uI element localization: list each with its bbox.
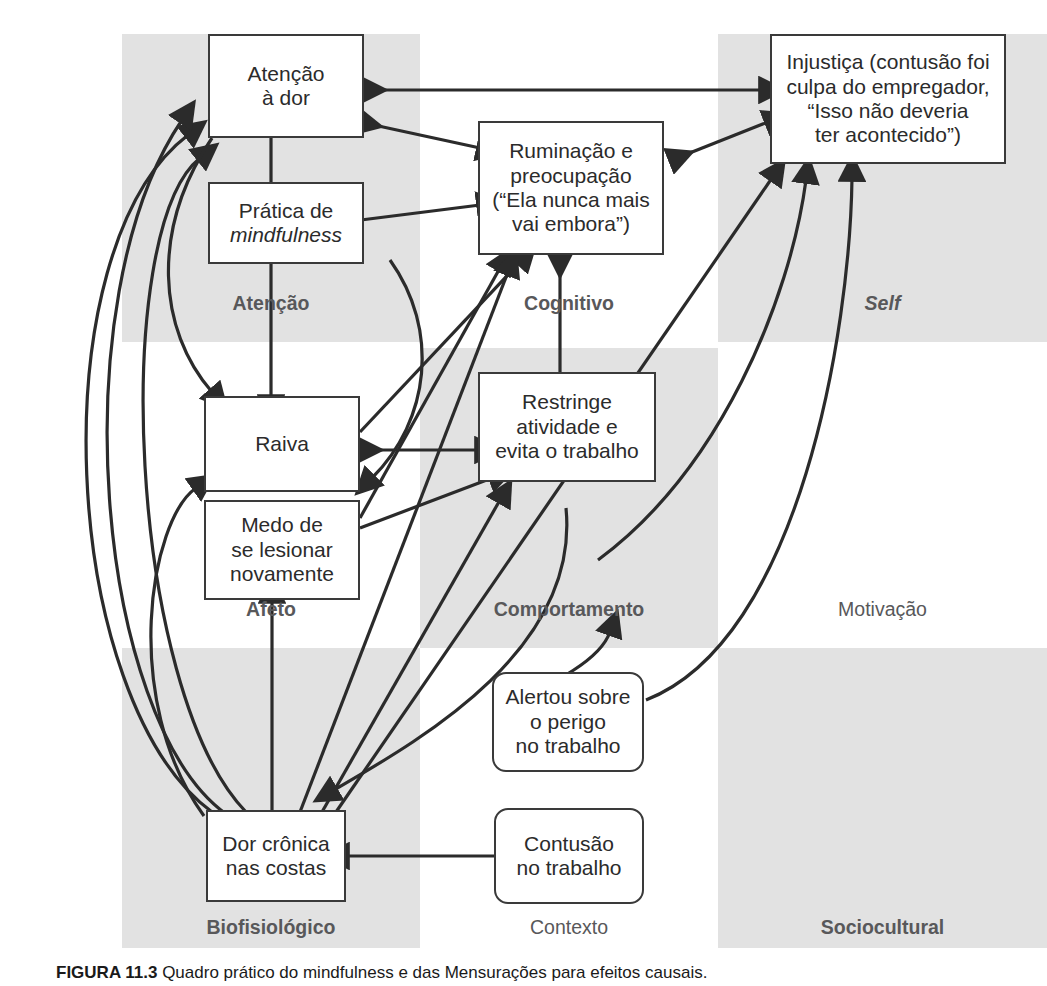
node-mindfulness-line1: Prática de <box>239 199 334 222</box>
node-contusao-no-trabalho[interactable]: Contusão no trabalho <box>494 808 644 904</box>
node-injustica-line2: culpa do empregador, <box>786 75 989 98</box>
node-injustica-line1: Injustiça (contusão foi <box>786 50 989 73</box>
figure-diagram: Atenção à dor Prática de mindfulness Rum… <box>0 0 1047 986</box>
node-medo-line3: novamente <box>230 562 334 585</box>
node-medo-de-se-lesionar[interactable]: Medo de se lesionar novamente <box>204 500 360 600</box>
node-injustica[interactable]: Injustiça (contusão foi culpa do emprega… <box>770 34 1006 164</box>
cell-label-contexto: Contexto <box>420 916 718 939</box>
cell-label-self: Self <box>718 292 1047 315</box>
node-atencao-a-dor[interactable]: Atenção à dor <box>208 34 364 138</box>
node-atencao-a-dor-line2: à dor <box>262 86 310 109</box>
node-restringe-atividade[interactable]: Restringe atividade e evita o trabalho <box>478 372 656 482</box>
node-alertou-line3: no trabalho <box>515 734 620 757</box>
node-raiva-line1: Raiva <box>255 432 309 456</box>
figure-caption-label: FIGURA 11.3 <box>56 963 157 982</box>
node-contusao-line1: Contusão <box>524 832 614 855</box>
cell-label-sociocultural: Sociocultural <box>718 916 1047 939</box>
node-ruminacao-line3: (“Ela nunca mais <box>492 188 650 211</box>
node-medo-line1: Medo de <box>241 513 323 536</box>
node-dor-cronica-line2: nas costas <box>226 856 326 879</box>
node-restringe-line2: atividade e <box>516 415 618 438</box>
node-contusao-line2: no trabalho <box>516 856 621 879</box>
figure-caption-text: Quadro prático do mindfulness e das Mens… <box>162 963 707 982</box>
node-alertou-line1: Alertou sobre <box>506 685 631 708</box>
node-mindfulness-line2: mindfulness <box>230 223 342 246</box>
cell-label-cognitivo: Cognitivo <box>420 292 718 315</box>
node-atencao-a-dor-line1: Atenção <box>247 62 324 85</box>
node-ruminacao-line4: vai embora”) <box>512 212 630 235</box>
cell-label-biofisiol-gico: Biofisiológico <box>122 916 420 939</box>
node-dor-cronica-nas-costas[interactable]: Dor crônica nas costas <box>206 810 346 902</box>
cell-label-motiva--o: Motivação <box>718 598 1047 621</box>
node-medo-line2: se lesionar <box>231 538 333 561</box>
node-alertou-sobre-o-perigo[interactable]: Alertou sobre o perigo no trabalho <box>492 672 644 772</box>
node-ruminacao-line2: preocupação <box>510 164 631 187</box>
node-restringe-line3: evita o trabalho <box>495 439 639 462</box>
node-dor-cronica-line1: Dor crônica <box>222 832 329 855</box>
node-ruminacao-line1: Ruminação e <box>509 139 633 162</box>
node-injustica-line4: ter acontecido”) <box>815 123 961 146</box>
node-ruminacao-e-preocupacao[interactable]: Ruminação e preocupação (“Ela nunca mais… <box>478 121 664 255</box>
figure-caption: FIGURA 11.3 Quadro prático do mindfulnes… <box>56 962 1036 984</box>
cell-label-aten--o: Atenção <box>122 292 420 315</box>
node-alertou-line2: o perigo <box>530 710 606 733</box>
node-pratica-de-mindfulness[interactable]: Prática de mindfulness <box>208 182 364 264</box>
cell-label-comportamento: Comportamento <box>420 598 718 621</box>
cell-label-afeto: Afeto <box>122 598 420 621</box>
node-restringe-line1: Restringe <box>522 390 612 413</box>
node-raiva[interactable]: Raiva <box>204 396 360 492</box>
node-injustica-line3: “Isso não deveria <box>807 99 968 122</box>
